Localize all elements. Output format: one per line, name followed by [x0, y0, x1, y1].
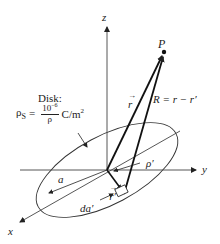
- vector-r-prime-label: r′: [109, 191, 116, 202]
- x-axis-label: x: [8, 226, 13, 237]
- rho-prime-label: ρ′: [146, 158, 154, 169]
- surface-density-formula: ρS = 10−6 ρ C/m2: [16, 102, 84, 125]
- x-axis: [20, 131, 180, 222]
- point-p-label: P: [158, 38, 165, 50]
- y-axis-label: y: [202, 164, 207, 175]
- area-element-label: da′: [80, 203, 93, 214]
- radius-label: a: [58, 174, 64, 185]
- vector-r-label: r: [128, 99, 132, 110]
- equals-sign: =: [29, 107, 35, 119]
- density-units: C/m2: [62, 107, 84, 120]
- density-fraction: 10−6 ρ: [41, 102, 58, 125]
- vector-r: [107, 56, 162, 170]
- z-axis-label: z: [102, 12, 106, 23]
- vector-R-label: R = r − r′: [153, 94, 197, 105]
- density-symbol: ρS: [16, 106, 26, 121]
